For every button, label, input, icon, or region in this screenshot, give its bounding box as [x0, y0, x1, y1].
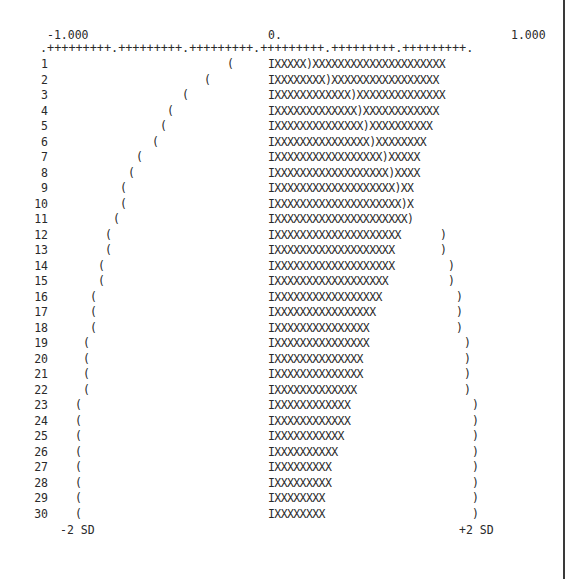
lower-bound-marker: ( [160, 119, 167, 133]
lag-row: 25(IXXXXXXXXXXX) [0, 429, 563, 445]
correlation-bar: IXXXXXXXXXXXXXXXXXXXX [268, 228, 401, 242]
correlation-bar: IXXXXXXXXXXXXXXXX [268, 305, 376, 319]
upper-bound-marker: ) [456, 305, 463, 319]
correlation-bar: IXXXXXXXXXXXXXXXXXX [268, 274, 388, 288]
lag-row: 11(IXXXXXXXXXXXXXXXXXXXXX) [0, 212, 563, 228]
lower-bound-marker: ( [83, 336, 90, 350]
correlation-bar: IXXXXXXXXXXXXXXXXXXXXX) [268, 212, 413, 226]
lower-bound-marker: ( [83, 383, 90, 397]
upper-bound-marker: ) [472, 445, 479, 459]
lag-row: 14(IXXXXXXXXXXXXXXXXXXX) [0, 259, 563, 275]
lag-row: 9(IXXXXXXXXXXXXXXXXXXX)XX [0, 181, 563, 197]
lag-row: 5(IXXXXXXXXXXXXXX)XXXXXXXXXX [0, 119, 563, 135]
upper-bound-marker: ) [472, 476, 479, 490]
upper-bound-marker: ) [464, 367, 471, 381]
lag-number: 2 [22, 73, 48, 87]
lower-bound-marker: ( [75, 429, 82, 443]
correlation-bar: IXXXXXXXXXXXX [268, 414, 350, 428]
upper-bound-marker: ) [456, 321, 463, 335]
lag-row: 8(IXXXXXXXXXXXXXXXXXX)XXXX [0, 166, 563, 182]
lower-bound-marker: ( [90, 321, 97, 335]
lag-number: 22 [22, 383, 48, 397]
correlation-bar: IXXXXXXXXXXXXXXX [268, 321, 369, 335]
lag-number: 4 [22, 104, 48, 118]
lower-bound-marker: ( [105, 228, 112, 242]
correlation-bar: IXXXXXXXXXXXXXX)XXXXXXXXXX [268, 119, 432, 133]
lag-number: 26 [22, 445, 48, 459]
lower-bound-marker: ( [204, 73, 211, 87]
lag-number: 12 [22, 228, 48, 242]
lower-bound-marker: ( [75, 476, 82, 490]
lag-row: 15(IXXXXXXXXXXXXXXXXXX) [0, 274, 563, 290]
upper-bound-marker: ) [464, 383, 471, 397]
lag-row: 23(IXXXXXXXXXXXX) [0, 398, 563, 414]
lag-row: 3(IXXXXXXXXXXXX)XXXXXXXXXXXXXX [0, 88, 563, 104]
lag-number: 23 [22, 398, 48, 412]
upper-bound-marker: ) [456, 290, 463, 304]
correlation-bar: IXXXXXXXXXXXXX [268, 383, 357, 397]
upper-bound-marker: ) [472, 414, 479, 428]
minus-2sd-label: -2 SD [60, 523, 95, 537]
upper-bound-marker: ) [440, 243, 447, 257]
lag-row: 12(IXXXXXXXXXXXXXXXXXXXX) [0, 228, 563, 244]
lag-row: 16(IXXXXXXXXXXXXXXXXX) [0, 290, 563, 306]
lag-row: 30(IXXXXXXXX) [0, 507, 563, 523]
lag-number: 14 [22, 259, 48, 273]
upper-bound-marker: ) [464, 352, 471, 366]
correlation-bar: IXXXXXXXXXXXXXXXXXXX)XX [268, 181, 413, 195]
lag-number: 11 [22, 212, 48, 226]
lower-bound-marker: ( [75, 491, 82, 505]
correlation-bar: IXXXXXXXXXXXXX)XXXXXXXXXXXX [268, 104, 439, 118]
lag-row: 1(IXXXXX)XXXXXXXXXXXXXXXXXXXXX [0, 57, 563, 73]
lower-bound-marker: ( [98, 274, 105, 288]
lower-bound-marker: ( [105, 243, 112, 257]
lag-number: 9 [22, 181, 48, 195]
lag-row: 6(IXXXXXXXXXXXXXXX)XXXXXXXX [0, 135, 563, 151]
chart-frame: -1.000 0. 1.000 .+++++++++.+++++++++.+++… [0, 0, 565, 579]
correlation-bar: IXXXXXXXXXXXXXX [268, 367, 363, 381]
correlation-bar: IXXXXXXXXXXXXXXXXXXX [268, 259, 394, 273]
lag-row: 18(IXXXXXXXXXXXXXXX) [0, 321, 563, 337]
lag-number: 28 [22, 476, 48, 490]
lag-row: 22(IXXXXXXXXXXXXX) [0, 383, 563, 399]
lag-number: 19 [22, 336, 48, 350]
upper-bound-marker: ) [472, 460, 479, 474]
lag-number: 17 [22, 305, 48, 319]
autocorrelation-rows: 1(IXXXXX)XXXXXXXXXXXXXXXXXXXXX2(IXXXXXXX… [0, 57, 563, 522]
lag-number: 10 [22, 197, 48, 211]
lag-number: 5 [22, 119, 48, 133]
lag-number: 25 [22, 429, 48, 443]
correlation-bar: IXXXXXXXXXXXXXXXXXXXX)X [268, 197, 413, 211]
correlation-bar: IXXXXXXXXXXXXXXX [268, 336, 369, 350]
lag-row: 7(IXXXXXXXXXXXXXXXXX)XXXXX [0, 150, 563, 166]
correlation-bar: IXXXXXXXXX [268, 476, 331, 490]
tick-label-max: 1.000 [511, 28, 546, 42]
lower-bound-marker: ( [90, 290, 97, 304]
lower-bound-marker: ( [113, 212, 120, 226]
correlation-bar: IXXXXXXXXXXXXXXX)XXXXXXXX [268, 135, 426, 149]
lower-bound-marker: ( [90, 305, 97, 319]
lower-bound-marker: ( [75, 414, 82, 428]
lag-row: 24(IXXXXXXXXXXXX) [0, 414, 563, 430]
tick-label-zero: 0. [268, 28, 282, 42]
x-axis-scale-line: .+++++++++.+++++++++.+++++++++.+++++++++… [40, 41, 473, 55]
lag-number: 6 [22, 135, 48, 149]
lag-number: 24 [22, 414, 48, 428]
lag-number: 16 [22, 290, 48, 304]
lag-number: 30 [22, 507, 48, 521]
lower-bound-marker: ( [83, 352, 90, 366]
lower-bound-marker: ( [152, 135, 159, 149]
lower-bound-marker: ( [75, 507, 82, 521]
correlation-bar: IXXXXXXXXX [268, 460, 331, 474]
lower-bound-marker: ( [128, 166, 135, 180]
upper-bound-marker: ) [464, 336, 471, 350]
lower-bound-marker: ( [182, 88, 189, 102]
lower-bound-marker: ( [75, 445, 82, 459]
lag-number: 20 [22, 352, 48, 366]
correlation-bar: IXXXXXXXXXX [268, 445, 338, 459]
correlation-bar: IXXXXXXXX)XXXXXXXXXXXXXXXXX [268, 73, 439, 87]
upper-bound-marker: ) [448, 274, 455, 288]
lag-number: 3 [22, 88, 48, 102]
upper-bound-marker: ) [472, 507, 479, 521]
lower-bound-marker: ( [167, 104, 174, 118]
